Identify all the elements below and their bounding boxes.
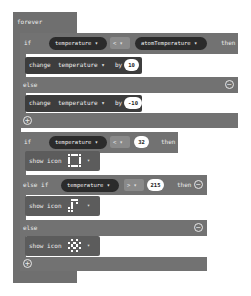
else-if-label: else if xyxy=(23,181,48,189)
forever-block[interactable]: forever xyxy=(13,12,77,34)
then-label: then xyxy=(161,138,175,146)
change-label: change xyxy=(29,61,51,69)
show-icon-label: show icon xyxy=(29,202,62,210)
if-label: if xyxy=(24,39,31,47)
value-input[interactable]: -10 xyxy=(124,97,142,109)
add-branch-icon[interactable]: + xyxy=(23,116,32,125)
chevron-down-icon[interactable]: ▾ xyxy=(87,157,90,163)
led-icon-square[interactable] xyxy=(68,154,81,167)
variable-dropdown[interactable]: temperature ▾ xyxy=(58,99,105,107)
forever-label: forever xyxy=(17,18,42,26)
remove-else-icon[interactable]: − xyxy=(225,80,234,89)
led-icon-checker[interactable] xyxy=(68,239,81,252)
variable-dropdown[interactable]: temperature ▾ xyxy=(49,37,107,50)
else-label: else xyxy=(23,224,37,232)
then-label: then xyxy=(177,181,191,189)
change-label: change xyxy=(29,99,51,107)
by-label: by xyxy=(115,99,122,107)
forever-bottom xyxy=(13,270,77,283)
else-row: else − xyxy=(20,77,238,93)
add-branch-icon[interactable]: + xyxy=(23,259,32,268)
variable-dropdown[interactable]: atomTemperature ▾ xyxy=(135,37,207,50)
else-if-row[interactable]: else if temperature ▾ > ▾ 215 then − xyxy=(20,175,207,195)
variable-dropdown[interactable]: temperature ▾ xyxy=(49,136,107,149)
else-row: else − xyxy=(20,220,207,236)
by-label: by xyxy=(115,61,122,69)
if-label: if xyxy=(24,138,31,146)
if1-footer: + xyxy=(20,113,238,128)
change-block[interactable]: change temperature ▾ by 10 xyxy=(25,57,142,74)
if-block-1[interactable]: if temperature ▾ < ▾ atomTemperature ▾ t… xyxy=(20,33,238,54)
change-block[interactable]: change temperature ▾ by -10 xyxy=(25,95,142,112)
operator-dropdown[interactable]: < ▾ xyxy=(110,37,130,49)
else-label: else xyxy=(23,81,37,89)
value-input[interactable]: 215 xyxy=(147,179,164,191)
operator-dropdown[interactable]: < ▾ xyxy=(110,136,130,148)
operator-dropdown[interactable]: > ▾ xyxy=(124,179,144,191)
show-icon-block[interactable]: show icon ▾ xyxy=(25,151,100,171)
show-icon-label: show icon xyxy=(29,157,62,165)
remove-else-if-icon[interactable]: − xyxy=(194,180,203,189)
value-input[interactable]: 32 xyxy=(134,136,149,148)
chevron-down-icon[interactable]: ▾ xyxy=(87,242,90,248)
variable-dropdown[interactable]: temperature ▾ xyxy=(61,179,119,192)
show-icon-label: show icon xyxy=(29,242,62,250)
value-input[interactable]: 10 xyxy=(124,59,139,71)
variable-dropdown[interactable]: temperature ▾ xyxy=(58,61,105,69)
chevron-down-icon[interactable]: ▾ xyxy=(87,202,90,208)
remove-else-icon[interactable]: − xyxy=(194,223,203,232)
then-label: then xyxy=(221,39,235,47)
show-icon-block[interactable]: show icon ▾ xyxy=(25,196,100,216)
if2-footer: + xyxy=(20,257,207,271)
show-icon-block[interactable]: show icon ▾ xyxy=(25,236,100,256)
led-icon-small-pattern[interactable] xyxy=(68,199,81,212)
if-block-2[interactable]: if temperature ▾ < ▾ 32 then xyxy=(20,132,178,153)
